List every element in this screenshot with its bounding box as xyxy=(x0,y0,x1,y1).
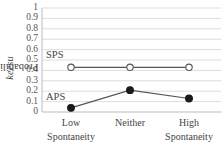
open-circle-marker xyxy=(186,64,192,70)
open-circle-marker xyxy=(127,64,133,70)
filled-circle-marker xyxy=(186,95,193,102)
series-label-sps: SPS xyxy=(46,49,64,60)
line-chart: Probability of keesu 00.10.20.30.40.50.6… xyxy=(0,0,223,147)
filled-circle-marker xyxy=(68,104,75,111)
series-label-aps: APS xyxy=(46,91,65,102)
x-category-label: HighSpontaneity xyxy=(154,116,223,144)
filled-circle-marker xyxy=(127,87,134,94)
open-circle-marker xyxy=(68,64,74,70)
